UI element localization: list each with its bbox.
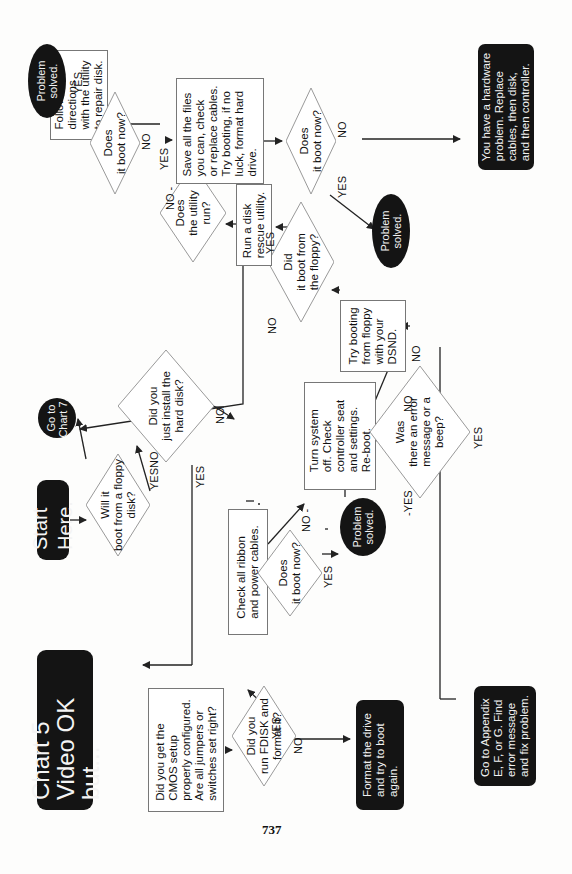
start-here-node: Start Here. (37, 480, 69, 560)
problem-solved-2-terminal: Problem solved. (28, 44, 66, 118)
label-boot4-no: NO (336, 122, 348, 139)
try-floppy-box: Try booting from floppy with your DSND. (340, 300, 406, 372)
format-drive-terminal: Format the drive and try to boot again. (356, 700, 404, 810)
appendix-terminal: Go to Appendix E, F, or G. Find error me… (474, 686, 536, 786)
will-boot-floppy-diamond: Will it boot from a floppy disk? (86, 454, 150, 556)
just-install-diamond: Did you just install the hard disk? (118, 350, 214, 462)
label-boot2-yes: -YES (402, 490, 414, 516)
label-boot4-yes: YES (336, 176, 348, 198)
label-error-yes: YES (472, 427, 484, 449)
chart-title: Chart 5 Video OK but... (37, 650, 93, 810)
problem-solved-3-terminal: Problem solved. (372, 194, 410, 268)
label-boot1-no: NO - (300, 509, 312, 532)
label-just-install-yes: YES (194, 466, 206, 488)
page-number-footer: 737 (262, 822, 282, 838)
boot-floppy-text: Did it boot from the floppy? (282, 233, 321, 291)
label-boot2-no: NO (402, 396, 414, 413)
problem-solved-1-terminal: Problem solved. (340, 498, 386, 556)
boot-now-3-text: Does it boot now? (102, 112, 128, 174)
label-fdisk-yes: YES (270, 717, 282, 739)
utility-run-text: Does the utility run? (174, 190, 213, 235)
boot-now-1-text: Does it boot now? (277, 542, 303, 604)
label-boot1-yes: YES (322, 566, 334, 588)
label-floppy-yes: YES (264, 232, 276, 254)
flowchart-canvas: Chart 5 Video OK but... Start Here. Will… (0, 0, 572, 874)
error-question-diamond: Was there an error message or a beep? (370, 366, 470, 498)
go-to-chart-7-terminal: Go to Chart 7. (38, 398, 76, 438)
turn-system-off-box: Turn system off. Check controller seat a… (304, 382, 376, 490)
hardware-problem-terminal: You have a hardware problem. Replace cab… (478, 44, 534, 170)
save-files-box: Save all the files you can, check or rep… (176, 78, 264, 184)
label-fdisk-no: NO (292, 738, 304, 755)
label-boot3-yes: YES (72, 72, 84, 94)
just-install-text: Did you just install the hard disk? (147, 371, 186, 441)
boot-now-3-diamond-shape: Does it boot now? (90, 92, 140, 194)
label-will-boot-no: NO (148, 452, 160, 469)
label-will-boot-yes: YES (148, 468, 160, 490)
label-utility-no: NO - (164, 187, 176, 210)
boot-now-4-diamond: Does it boot now? (286, 88, 336, 194)
fdisk-diamond: Did you run FDISK and format it? (232, 686, 296, 786)
label-utility-yes: YES (158, 148, 170, 170)
label-floppy-no: NO (266, 318, 278, 335)
boot-now-1-diamond: Does it boot now? (258, 530, 322, 616)
label-boot3-no: NO (140, 134, 152, 151)
will-boot-floppy-text: Will it boot from a floppy disk? (99, 459, 138, 551)
label-error-no: NO (410, 346, 422, 363)
boot-from-floppy-diamond: Did it boot from the floppy? (268, 202, 334, 322)
label-just-install-no: NO (214, 408, 226, 425)
boot-now-4-text: Does it boot now? (298, 110, 324, 172)
cmos-setup-box: Did you get the CMOS setup properly conf… (148, 688, 224, 812)
